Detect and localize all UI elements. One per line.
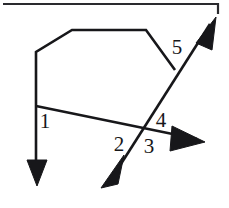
geometry-figure: 1 2 3 4 5 bbox=[0, 0, 229, 208]
arrow-down-icon bbox=[27, 160, 47, 186]
diagonal-ray-path bbox=[112, 24, 210, 178]
arrow-right-icon bbox=[170, 126, 205, 151]
angle-label-2: 2 bbox=[114, 132, 125, 156]
polygon-chain-path bbox=[36, 30, 175, 106]
arrow-southwest-icon bbox=[101, 155, 124, 188]
angle-label-5: 5 bbox=[172, 35, 183, 59]
angle-label-4: 4 bbox=[156, 108, 167, 132]
page-border-line bbox=[3, 4, 218, 14]
arrow-northeast-icon bbox=[196, 17, 216, 50]
angle-label-3: 3 bbox=[144, 134, 155, 158]
angle-label-1: 1 bbox=[40, 109, 51, 133]
figure-canvas: 1 2 3 4 5 bbox=[0, 0, 229, 208]
